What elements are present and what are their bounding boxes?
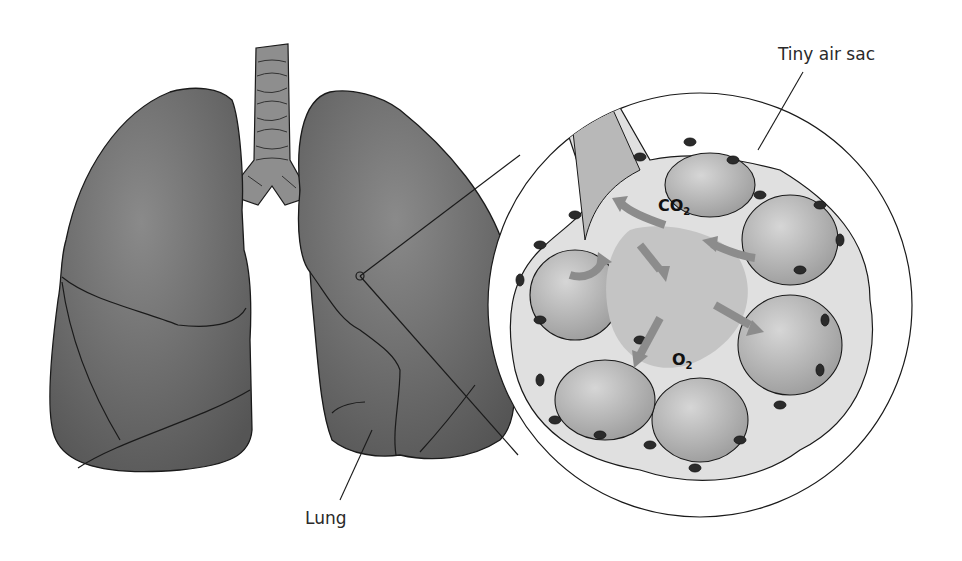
air-sac-label: Tiny air sac: [778, 44, 875, 64]
o2-sub: 2: [686, 360, 693, 371]
co2-label: CO2: [658, 196, 690, 217]
lung-diagram: Tiny air sac Lung CO2 O2: [0, 0, 962, 561]
left-lung: [50, 88, 252, 471]
o2-label: O2: [672, 350, 693, 371]
o2-main: O: [672, 350, 686, 369]
lung-label: Lung: [305, 508, 347, 528]
co2-main: CO: [658, 196, 683, 215]
trachea: [238, 44, 300, 205]
right-lung: [298, 91, 514, 459]
co2-sub: 2: [683, 206, 690, 217]
magnifier-circle: [488, 90, 912, 517]
